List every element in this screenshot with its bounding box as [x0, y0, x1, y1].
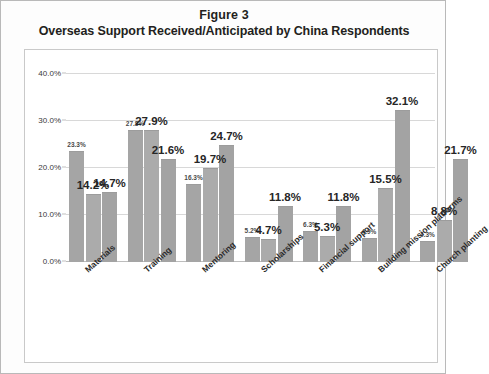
bar-value-label: 11.8%	[328, 191, 360, 203]
y-axis-tick-label: 40.0%	[38, 69, 61, 78]
bar	[245, 237, 260, 262]
bar-value-label: 24.7%	[210, 130, 243, 142]
bar-value-label: 5.3%	[314, 221, 340, 233]
bar	[203, 168, 218, 262]
bar-value-label: 16.3%	[184, 174, 202, 181]
bar	[362, 238, 377, 262]
bar-value-label: 21.6%	[152, 144, 185, 156]
figure-number: Figure 3	[1, 8, 447, 23]
figure-title: Figure 3 Overseas Support Received/Antic…	[1, 8, 447, 39]
figure-caption: Overseas Support Received/Anticipated by…	[1, 23, 447, 39]
bar	[303, 231, 318, 262]
bar-value-label: 14.7%	[93, 177, 126, 189]
y-axis-tick-label: 0.0%	[43, 257, 61, 266]
bar-value-label: 15.5%	[369, 173, 402, 185]
y-axis-tick-label: 10.0%	[38, 210, 61, 219]
bar-value-label: 21.7%	[444, 144, 477, 156]
bar-value-label: 19.7%	[194, 153, 227, 165]
bar-value-label: 27.9%	[135, 115, 168, 127]
bar	[186, 184, 201, 262]
bar	[378, 188, 393, 262]
plot-area: 0.0%10.0%20.0%30.0%40.0% 23.3%14.2%14.7%…	[66, 50, 435, 362]
chart-frame: 0.0%10.0%20.0%30.0%40.0% 23.3%14.2%14.7%…	[24, 49, 438, 363]
bar	[69, 151, 84, 262]
bar-value-label: 11.8%	[269, 191, 301, 203]
y-axis-tick-label: 20.0%	[38, 163, 61, 172]
bar	[420, 241, 435, 262]
bar-value-label: 32.1%	[386, 95, 419, 107]
bar-value-label: 4.7%	[255, 224, 281, 236]
y-axis-tick-label: 30.0%	[38, 116, 61, 125]
bar-value-label: 23.3%	[67, 141, 85, 148]
bar	[128, 130, 143, 262]
